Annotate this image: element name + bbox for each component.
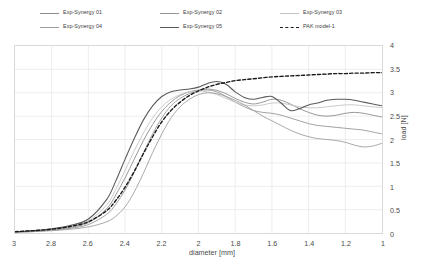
legend-item-exp-synergy-05: Exp-Synergy 05: [160, 24, 280, 29]
x-tick-label: 3: [12, 239, 16, 248]
y-tick-label: 0.5: [390, 206, 400, 215]
legend-label-exp-synergy-03: Exp-Synergy 03: [303, 10, 342, 15]
legend-swatch-exp-synergy-03: [280, 13, 299, 14]
legend-label-exp-synergy-01: Exp-Synergy 01: [63, 10, 102, 15]
x-tick-label: 2.2: [157, 239, 167, 248]
y-tick-label: 0: [390, 230, 394, 239]
x-tick-label: 2.6: [83, 239, 93, 248]
legend-swatch-exp-synergy-04: [40, 27, 59, 28]
legend-swatch-exp-synergy-01: [40, 13, 59, 14]
y-tick-label: 2: [390, 135, 394, 144]
x-tick-label: 2: [197, 239, 201, 248]
y-tick-label: 3: [390, 88, 394, 97]
legend-label-exp-synergy-05: Exp-Synergy 05: [183, 24, 222, 29]
x-tick-label: 1.4: [304, 239, 314, 248]
legend-swatch-pak-model-1: [280, 27, 299, 28]
x-tick-label: 1.8: [230, 239, 240, 248]
x-tick-label: 1.6: [267, 239, 277, 248]
legend-label-exp-synergy-02: Exp-Synergy 02: [183, 10, 222, 15]
legend-item-exp-synergy-01: Exp-Synergy 01: [40, 10, 160, 15]
x-tick-label: 1.2: [341, 239, 351, 248]
legend-swatch-exp-synergy-05: [160, 27, 179, 28]
y-tick-label: 1.5: [390, 159, 400, 168]
plot-svg: [15, 46, 382, 233]
x-tick-label: 2.8: [46, 239, 56, 248]
legend-item-exp-synergy-03: Exp-Synergy 03: [280, 10, 400, 15]
y-axis-title: load [N]: [399, 115, 408, 140]
y-tick-label: 1: [390, 182, 394, 191]
legend-item-exp-synergy-04: Exp-Synergy 04: [40, 24, 160, 29]
x-axis-title: diameter [mm]: [0, 248, 424, 257]
legend-item-pak-model-1: PAK model-1: [280, 24, 400, 29]
chart-container: Exp-Synergy 01 Exp-Synergy 02 Exp-Synerg…: [0, 0, 424, 271]
y-tick-label: 3.5: [390, 64, 400, 73]
plot-area: [14, 45, 383, 234]
legend-label-exp-synergy-04: Exp-Synergy 04: [63, 24, 102, 29]
x-tick-label: 1: [381, 239, 385, 248]
chart-legend: Exp-Synergy 01 Exp-Synergy 02 Exp-Synerg…: [40, 6, 390, 36]
legend-swatch-exp-synergy-02: [160, 13, 179, 14]
legend-item-exp-synergy-02: Exp-Synergy 02: [160, 10, 280, 15]
x-tick-label: 2.4: [120, 239, 130, 248]
y-tick-label: 4: [390, 41, 394, 50]
legend-label-pak-model-1: PAK model-1: [303, 24, 335, 29]
